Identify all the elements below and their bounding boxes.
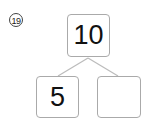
connector-left (58, 58, 88, 76)
part-box-left: 5 (36, 76, 79, 118)
part-box-right-answer[interactable] (97, 76, 141, 118)
part-left-value: 5 (50, 82, 65, 113)
whole-value: 10 (73, 20, 103, 51)
whole-box: 10 (67, 14, 110, 57)
connector-right (88, 58, 118, 76)
